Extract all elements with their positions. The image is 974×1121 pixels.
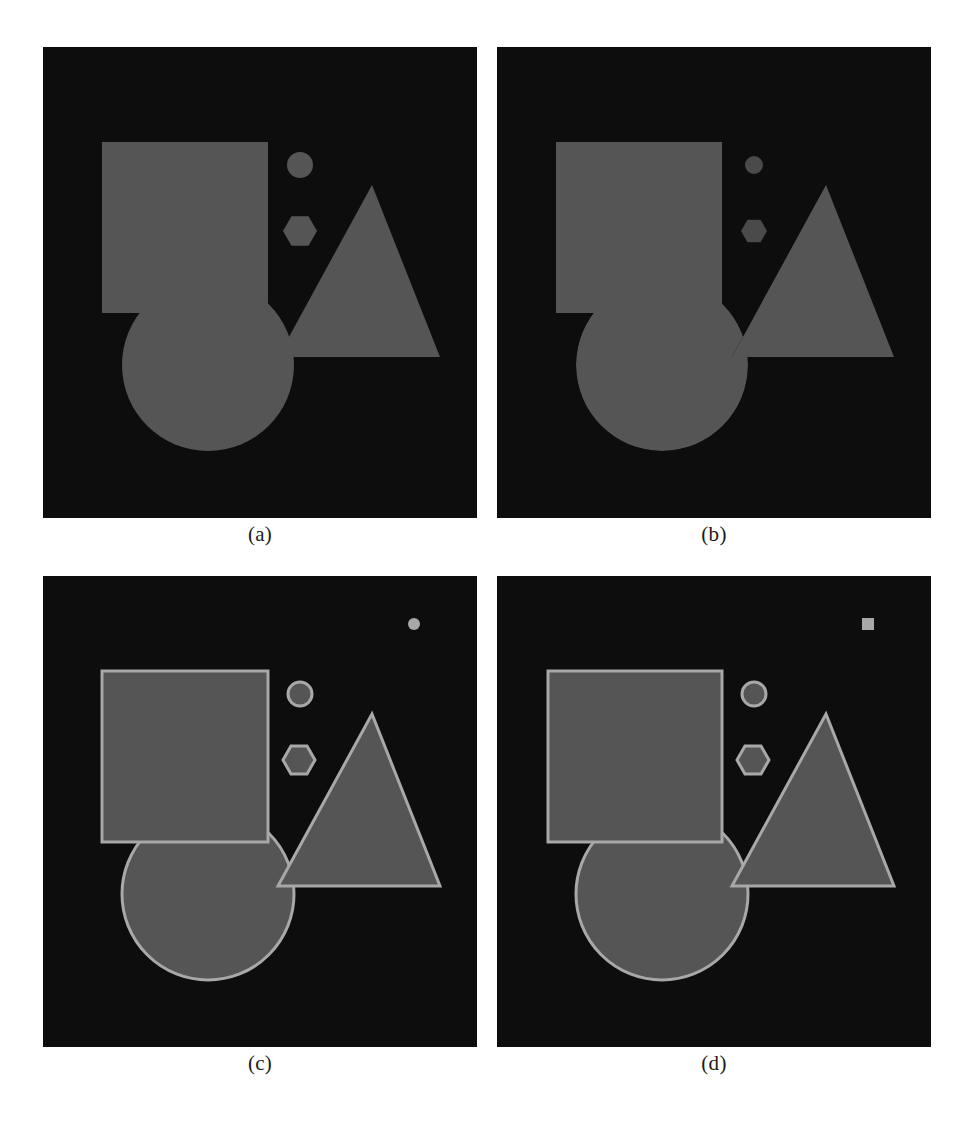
- shape-small-circle: [742, 682, 766, 706]
- shape-small-circle: [745, 156, 763, 174]
- panel-a: [43, 47, 477, 518]
- shape-square: [556, 142, 722, 313]
- shape-square: [102, 671, 268, 842]
- caption-c: (c): [43, 1053, 477, 1074]
- figure-container: (a) (b): [0, 0, 974, 1121]
- panel-c-canvas: [43, 576, 477, 1047]
- marker-dot-icon: [408, 618, 420, 630]
- caption-a: (a): [43, 524, 477, 545]
- caption-d: (d): [497, 1053, 931, 1074]
- panel-d-canvas: [497, 576, 931, 1047]
- shape-square: [548, 671, 722, 842]
- shape-small-circle: [287, 152, 313, 178]
- shape-small-circle: [288, 682, 312, 706]
- marker-square-icon: [862, 618, 874, 630]
- shape-square: [102, 142, 268, 313]
- panel-c: [43, 576, 477, 1047]
- shape-hexagon: [737, 746, 769, 774]
- shape-hexagon: [283, 746, 315, 774]
- panel-b: [497, 47, 931, 518]
- panel-b-canvas: [497, 47, 931, 518]
- panel-d: [497, 576, 931, 1047]
- caption-b: (b): [497, 524, 931, 545]
- panel-a-canvas: [43, 47, 477, 518]
